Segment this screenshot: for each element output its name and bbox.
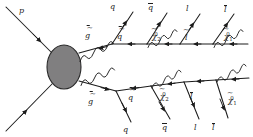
proton-label: p [19,7,24,15]
neutralino1-lower-label-subscript: 1 [233,100,237,106]
slepton-upper-label: l [185,34,188,42]
antilepton-lower-label-glyph: l [212,124,215,132]
neutralino2-lower-label-subscript: 2 [165,96,169,102]
neutralino2-upper-label-indices: 02 [157,32,161,42]
neutralino1-upper-label-indices: 01 [229,32,233,42]
quark-upper-label-glyph: q [110,3,115,11]
gluino-lower-propagator [79,68,116,91]
neutralino2-upper-label-subscript: 2 [157,36,161,42]
gluino-upper-label-glyph: g [85,32,90,40]
gluino-lower-label: g [88,98,93,106]
hard-interaction-blob [47,45,81,89]
squark-lower-label-glyph: q [128,94,133,102]
squark-upper-label-glyph: q [117,33,122,41]
neutralino2-lower-label-glyph: χ [160,93,165,101]
quark-upper-label: q [110,3,115,11]
antiquark-upper-label-glyph: q [148,4,153,12]
neutralino1-lower-label: χ01 [228,96,237,106]
incoming-proton-upper [6,7,52,53]
lepton-lower-label: l [194,124,197,132]
antilepton-upper-label: l [224,6,227,14]
neutralino1-upper-label-subscript: 1 [229,36,233,42]
quark-lower-label-glyph: q [123,126,128,134]
proton-label-glyph: p [19,7,24,15]
feynman-diagram-canvas [0,0,253,137]
lepton-upper-label: l [186,5,189,13]
antilepton-lower-label: l [212,124,215,132]
neutralino2-lower-label-indices: 02 [165,92,169,102]
neutralino1-lower-label-indices: 01 [233,96,237,106]
incoming-proton-lower [6,84,52,131]
lepton-upper-label-glyph: l [186,5,189,13]
neutralino2-lower-propagator [151,70,184,88]
neutralino2-lower-label: χ02 [160,92,169,102]
gluino-upper-propagator [79,42,114,62]
gluino-upper-label: g [85,32,90,40]
antilepton-lower-line [216,80,228,118]
squark-lower-label: q [128,94,133,102]
antiquark-lower-label-glyph: q [162,124,167,132]
neutralino1-upper-label-glyph: χ [224,33,229,41]
slepton-lower-propagator [184,80,216,82]
squark-upper-label: q [117,33,122,41]
gluino-lower-label-glyph: g [88,98,93,106]
antiquark-lower-label: q [162,124,167,132]
neutralino1-lower-propagator [216,64,249,82]
neutralino2-upper-label-glyph: χ [152,33,157,41]
neutralino1-lower-label-glyph: χ [228,97,233,105]
neutralino2-upper-label: χ02 [152,32,161,42]
feynman-diagram: pgqqqχ02lllχ01gqqqχ02lllχ01 [0,0,253,137]
slepton-lower-label-glyph: l [190,93,193,101]
slepton-lower-label: l [190,93,193,101]
lepton-lower-label-glyph: l [194,124,197,132]
neutralino1-upper-label: χ01 [224,32,233,42]
antiquark-upper-label: q [148,4,153,12]
quark-lower-label: q [123,126,128,134]
antilepton-upper-label-glyph: l [224,6,227,14]
slepton-upper-label-glyph: l [185,34,188,42]
